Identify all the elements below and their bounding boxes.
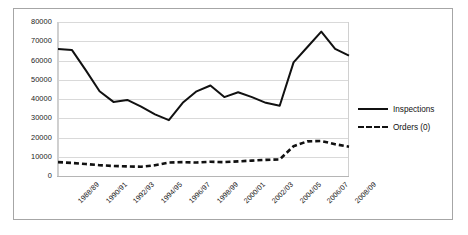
legend-item[interactable]: Orders (0) (358, 118, 434, 136)
chart-legend: InspectionsOrders (0) (358, 100, 434, 136)
legend-swatch-icon (358, 108, 388, 110)
y-axis-tick-label: 70000 (0, 36, 52, 45)
y-axis-tick-label: 50000 (0, 75, 52, 84)
y-axis-tick-label: 60000 (0, 56, 52, 65)
chart-container: 8000070000600005000040000300002000010000… (0, 0, 468, 235)
legend-swatch-icon (358, 126, 388, 128)
y-axis-tick-label: 30000 (0, 113, 52, 122)
series-line-orders-0 (58, 141, 349, 167)
y-axis-tick-label: 80000 (0, 17, 52, 26)
legend-item[interactable]: Inspections (358, 100, 434, 118)
y-axis-tick-label: 10000 (0, 152, 52, 161)
y-axis-tick-label: 20000 (0, 133, 52, 142)
x-axis-line (57, 176, 349, 177)
legend-label: Inspections (393, 105, 434, 114)
series-line-inspections (58, 32, 349, 121)
y-axis-tick-label: 40000 (0, 94, 52, 103)
y-axis-tick-label: 0 (0, 171, 52, 180)
legend-label: Orders (0) (393, 123, 430, 132)
data-series-lines (58, 22, 349, 176)
